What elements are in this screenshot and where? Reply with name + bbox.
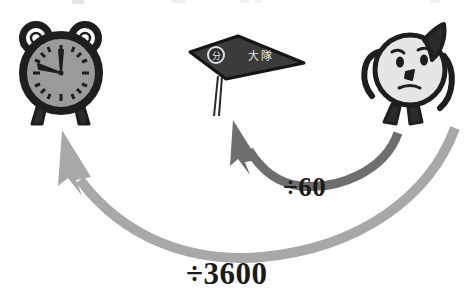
banner-emblem-text: 分 bbox=[212, 51, 221, 61]
round-face-character bbox=[364, 24, 452, 124]
banner-label-text: 大隊 bbox=[248, 49, 274, 63]
minute-banner: 分 大隊 bbox=[190, 36, 304, 116]
divide-by-60-label: ÷60 bbox=[283, 174, 326, 201]
diagram-canvas: 分 大隊 bbox=[0, 0, 470, 306]
divide-by-3600-label: ÷3600 bbox=[186, 258, 268, 289]
alarm-clock-character bbox=[23, 25, 100, 125]
